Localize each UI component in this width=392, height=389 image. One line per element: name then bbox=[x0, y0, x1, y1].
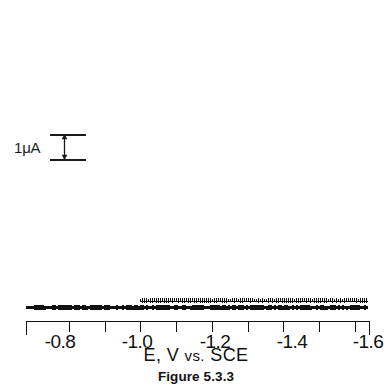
figure-caption: Figure 5.3.3 bbox=[0, 369, 392, 384]
current-scale-bar: 1μA bbox=[14, 128, 86, 168]
x-axis-title: E, V vs. SCE bbox=[0, 345, 392, 366]
x-axis-title-ref: SCE bbox=[210, 345, 248, 365]
residual-current-baseline-group bbox=[26, 298, 368, 310]
figure-root: 1μA -0.8-1.0-1.2-1.4-1.6 E, V vs. SCE Fi… bbox=[0, 0, 392, 389]
x-axis-title-vs: vs. bbox=[185, 347, 205, 364]
double-arrow-icon bbox=[59, 134, 70, 160]
current-scale-bar-label: 1μA bbox=[14, 139, 40, 156]
x-axis-title-main: E, V bbox=[143, 345, 179, 365]
